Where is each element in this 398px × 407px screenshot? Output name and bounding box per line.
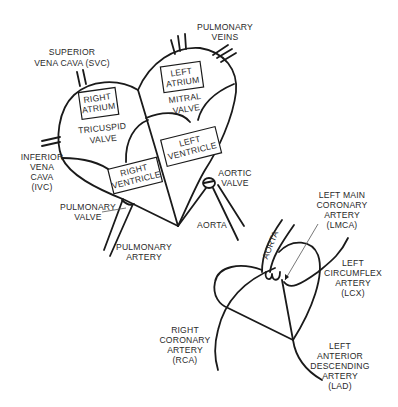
mitral-valve-line-right [198,84,234,120]
pulmonary-artery-label-line1: PULMONARY [116,242,172,252]
lcx-label-line3: ARTERY [335,278,371,288]
svc-vessel-icon [77,70,86,86]
svg-text:TRICUSPIDVALVE: TRICUSPIDVALVE [78,121,128,147]
aorta-vessel [178,185,244,240]
lmca-label-line1: LEFT MAIN [319,190,366,200]
svg-text:PULMONARYARTERY: PULMONARYARTERY [116,242,172,262]
svg-text:SUPERIORVENA CAVA (SVC): SUPERIORVENA CAVA (SVC) [34,47,110,68]
svg-text:MITRALVALVE: MITRALVALVE [168,91,203,116]
tricuspid-label-line2: VALVE [89,133,117,146]
ivc-label-line4: (IVC) [31,182,52,192]
coronary-heart-left-lobe [214,266,293,340]
coronary-labels: AORTA LEFT MAINCORONARYARTERY(LMCA) LEFT… [159,190,382,391]
rca-label-line1: RIGHT [171,325,199,335]
lcx-label-line2: CIRCUMFLEX [324,268,382,278]
pulmonary-veins-label-line1: PULMONARY [197,22,253,32]
aortic-valve-leaflet [204,181,214,183]
rca-label-line3: ARTERY [167,345,203,355]
svg-text:AORTICVALVE: AORTICVALVE [218,168,252,188]
rca-label-line4: (RCA) [173,355,198,365]
lad-label-line5: (LAD) [328,381,351,391]
rca-label-line2: CORONARY [159,335,210,345]
pulmonary-veins-label-line2: VEINS [212,32,239,42]
coronary-aorta-label: AORTA [260,229,280,260]
heart-diagram: SUPERIORVENA CAVA (SVC) PULMONARYVEINS R… [0,0,398,407]
lcx-label-line1: LEFT [342,258,364,268]
aortic-cusps-icon [266,272,280,280]
lmca-label-line4: (LMCA) [327,220,358,230]
svg-text:RIGHTCORONARYARTERY(RCA): RIGHTCORONARYARTERY(RCA) [159,325,210,365]
lad-label-line4: ARTERY [322,371,358,381]
svg-text:PULMONARYVEINS: PULMONARYVEINS [197,22,253,42]
ivc-label-line2: VENA [30,162,54,172]
lad-label-line3: DESCENDING [310,361,369,371]
tricuspid-valve-line [126,120,148,162]
svg-text:LEFTANTERIORDESCENDINGARTERY(L: LEFTANTERIORDESCENDINGARTERY(LAD) [310,341,369,391]
pulmonary-valve-label-line2: VALVE [74,212,101,222]
aortic-valve-label-line2: VALVE [221,178,248,188]
pulmonary-artery-label-line2: ARTERY [126,252,162,262]
aorta-label: AORTA [197,220,227,230]
ivc-label-line1: INFERIOR [21,152,64,162]
aortic-valve-label-line1: AORTIC [218,168,252,178]
ivc-vessel-icon [42,137,60,146]
svc-label-line2: VENA CAVA (SVC) [34,58,110,68]
svg-text:PULMONARYVALVE: PULMONARYVALVE [60,202,116,222]
lcx-label-line4: (LCX) [341,288,364,298]
rca-artery-path [215,268,275,370]
pulmonary-valve-label-line1: PULMONARY [60,202,116,212]
ivc-label-line3: CAVA [31,172,54,182]
coronary-heart-right-lobe [279,243,320,340]
svg-text:LEFT MAINCORONARYARTERY(LMCA): LEFT MAINCORONARYARTERY(LMCA) [316,190,367,230]
lad-label-line2: ANTERIOR [317,351,363,361]
svc-label-line1: SUPERIOR [49,47,96,57]
svg-text:INFERIORVENACAVA(IVC): INFERIORVENACAVA(IVC) [21,152,64,192]
lad-label-line1: LEFT [329,341,351,351]
lmca-label-line3: ARTERY [324,210,360,220]
right-av-line [62,158,112,172]
svg-text:LEFTCIRCUMFLEXARTERY(LCX): LEFTCIRCUMFLEXARTERY(LCX) [324,258,382,298]
lmca-label-line2: CORONARY [316,200,367,210]
